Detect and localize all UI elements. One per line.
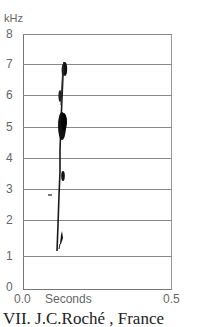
blob-5khz-core	[61, 113, 67, 131]
x-tick-end: 0.5	[163, 292, 180, 306]
tail-1-5khz	[59, 244, 60, 249]
blob-1-5khz	[60, 231, 63, 244]
spectrogram-traces	[0, 0, 212, 327]
blob-6khz	[58, 90, 61, 102]
blob-3-5khz	[61, 171, 65, 181]
blob-7khz-b	[62, 64, 65, 76]
x-tick-start: 0.0	[14, 292, 31, 306]
x-axis-label: Seconds	[45, 292, 92, 306]
figure-caption: VII. J.C.Roché , France	[3, 309, 164, 327]
